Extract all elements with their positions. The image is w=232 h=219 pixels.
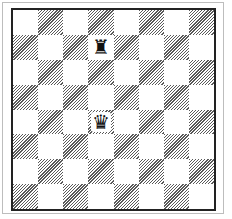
black-rook-icon[interactable]: ♜ [92, 37, 110, 57]
square-c5[interactable] [63, 85, 88, 110]
square-e1[interactable] [114, 184, 139, 209]
square-c2[interactable] [63, 159, 88, 184]
square-h4[interactable] [189, 110, 214, 135]
square-f1[interactable] [139, 184, 164, 209]
square-h3[interactable] [189, 134, 214, 159]
square-b1[interactable] [38, 184, 63, 209]
square-f5[interactable] [139, 85, 164, 110]
square-c1[interactable] [63, 184, 88, 209]
square-c7[interactable] [63, 35, 88, 60]
square-f4[interactable] [139, 110, 164, 135]
square-b4[interactable] [38, 110, 63, 135]
square-h5[interactable] [189, 85, 214, 110]
square-h7[interactable] [189, 35, 214, 60]
square-b7[interactable] [38, 35, 63, 60]
square-e4[interactable] [114, 110, 139, 135]
square-h1[interactable] [189, 184, 214, 209]
square-d4[interactable]: ♛ [88, 110, 113, 135]
square-a5[interactable] [13, 85, 38, 110]
square-d3[interactable] [88, 134, 113, 159]
square-c8[interactable] [63, 10, 88, 35]
square-g6[interactable] [164, 60, 189, 85]
square-h8[interactable] [189, 10, 214, 35]
square-c3[interactable] [63, 134, 88, 159]
square-a7[interactable] [13, 35, 38, 60]
square-a1[interactable] [13, 184, 38, 209]
square-a8[interactable] [13, 10, 38, 35]
square-c4[interactable] [63, 110, 88, 135]
square-e6[interactable] [114, 60, 139, 85]
square-g4[interactable] [164, 110, 189, 135]
square-b2[interactable] [38, 159, 63, 184]
square-a2[interactable] [13, 159, 38, 184]
square-b3[interactable] [38, 134, 63, 159]
square-e8[interactable] [114, 10, 139, 35]
square-g3[interactable] [164, 134, 189, 159]
square-f6[interactable] [139, 60, 164, 85]
square-d7[interactable]: ♜ [88, 35, 113, 60]
square-g8[interactable] [164, 10, 189, 35]
square-f3[interactable] [139, 134, 164, 159]
square-b6[interactable] [38, 60, 63, 85]
square-e7[interactable] [114, 35, 139, 60]
square-g7[interactable] [164, 35, 189, 60]
square-d5[interactable] [88, 85, 113, 110]
square-f8[interactable] [139, 10, 164, 35]
square-e3[interactable] [114, 134, 139, 159]
square-f2[interactable] [139, 159, 164, 184]
chess-board: ♜♛ [11, 8, 216, 211]
square-a3[interactable] [13, 134, 38, 159]
square-h2[interactable] [189, 159, 214, 184]
square-e2[interactable] [114, 159, 139, 184]
square-h6[interactable] [189, 60, 214, 85]
black-queen-icon[interactable]: ♛ [91, 112, 111, 132]
square-g1[interactable] [164, 184, 189, 209]
square-b5[interactable] [38, 85, 63, 110]
square-d1[interactable] [88, 184, 113, 209]
square-g5[interactable] [164, 85, 189, 110]
square-d2[interactable] [88, 159, 113, 184]
square-g2[interactable] [164, 159, 189, 184]
square-f7[interactable] [139, 35, 164, 60]
square-d6[interactable] [88, 60, 113, 85]
square-b8[interactable] [38, 10, 63, 35]
square-c6[interactable] [63, 60, 88, 85]
square-a4[interactable] [13, 110, 38, 135]
square-a6[interactable] [13, 60, 38, 85]
square-e5[interactable] [114, 85, 139, 110]
square-d8[interactable] [88, 10, 113, 35]
